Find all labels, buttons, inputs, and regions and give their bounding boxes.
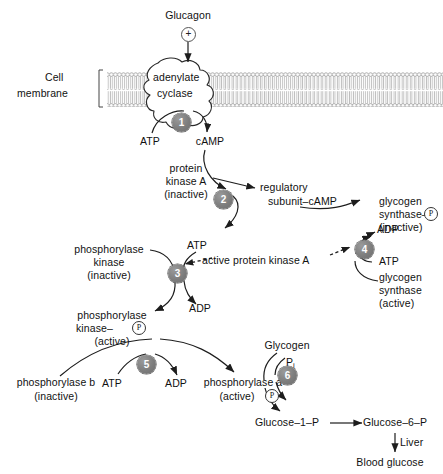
label-phosphorylase-b-1: phosphorylase b (17, 377, 96, 389)
label-glycogen-synthase-active-3: (active) (379, 298, 414, 310)
step-6-marker: 6 (278, 366, 297, 385)
label-cell-membrane-line1: Cell (45, 72, 64, 84)
label-phosphorylase-b-2: (inactive) (34, 391, 78, 403)
label-glycogen-synthase-inactive-2: synthase– (379, 209, 428, 221)
label-atp-5: ATP (102, 378, 122, 390)
label-glucose-6-p: Glucose–6–P (363, 417, 427, 429)
plus-sign-icon: + (181, 27, 196, 42)
label-phosphorylase-a-2: (active) (219, 391, 254, 403)
label-blood-glucose: Blood glucose (356, 457, 423, 469)
label-phosphorylase-a-1: phosphorylase a (204, 377, 283, 389)
label-protein-kinase-a-1: protein (170, 163, 203, 175)
label-glucose-1-p: Glucose–1–P (255, 417, 319, 429)
label-protein-kinase-a-2: kinase A (166, 176, 207, 188)
label-glycogen-synthase-active-2: synthase (379, 285, 422, 297)
label-phos-kinase-inactive-2: kinase (94, 257, 125, 269)
label-regulatory-2: subunit–cAMP (268, 196, 337, 208)
label-phos-kinase-inactive-3: (inactive) (87, 270, 131, 282)
phosphate-circle-phosphorylase-a: P (265, 389, 279, 403)
step-2-marker: 2 (214, 190, 233, 209)
label-phos-kinase-active-2: kinase– (76, 323, 113, 335)
label-camp: cAMP (196, 136, 224, 148)
label-regulatory-1: regulatory (260, 182, 308, 194)
label-active-protein-kinase-a: active protein kinase A (202, 255, 309, 267)
camp-to-step2-arrow (204, 150, 226, 189)
step-1-marker: 1 (172, 113, 191, 132)
step-4-marker: 4 (355, 240, 374, 259)
label-phos-kinase-active-3: (active) (94, 336, 129, 348)
label-adp-2: ADP (189, 303, 211, 315)
label-phos-kinase-inactive-1: phosphorylase (74, 244, 144, 256)
label-glycogen: Glycogen (264, 340, 309, 352)
phosphate-circle-synthase: P (424, 207, 438, 221)
label-protein-kinase-a-3: (inactive) (164, 189, 208, 201)
label-glucagon: Glucagon (165, 10, 211, 22)
phosphate-circle-kinase: P (132, 321, 146, 335)
label-liver: Liver (400, 437, 423, 449)
label-glycogen-synthase-inactive-3: (inactive) (379, 222, 423, 234)
label-phos-kinase-active-1: phosphorylase (77, 310, 147, 322)
diagram-vector-layer (0, 0, 443, 474)
label-cyclase: cyclase (157, 88, 193, 100)
label-atp-2: ATP (187, 240, 207, 252)
label-atp-1: ATP (140, 136, 160, 148)
step-3-marker: 3 (168, 264, 187, 283)
label-glycogen-synthase-inactive-1: glycogen (379, 196, 422, 208)
label-cell-membrane-line2: membrane (17, 88, 68, 100)
pathway-diagram: Glucagon + Cell membrane adenylate cycla… (0, 0, 443, 474)
label-adp-5: ADP (165, 378, 187, 390)
step-5-marker: 5 (137, 355, 156, 374)
label-glycogen-synthase-active-1: glycogen (379, 272, 422, 284)
label-atp-4: ATP (379, 256, 399, 268)
label-adenylate: adenylate (153, 72, 199, 84)
